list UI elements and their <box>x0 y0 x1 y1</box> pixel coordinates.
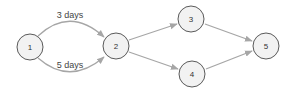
edge-label-5-days: 5 days <box>57 60 84 70</box>
node-2: 2 <box>103 33 129 59</box>
node-4: 4 <box>179 61 205 87</box>
node-5: 5 <box>253 33 279 59</box>
node-4-label: 4 <box>190 70 195 79</box>
edge-2-4 <box>129 52 178 69</box>
edge-3-5 <box>205 24 252 41</box>
node-3-label: 3 <box>189 15 194 24</box>
node-1: 1 <box>17 34 43 60</box>
node-5-label: 5 <box>264 42 269 51</box>
edge-1-2-upper <box>38 21 104 37</box>
node-3: 3 <box>178 6 204 32</box>
edge-label-3-days: 3 days <box>57 10 84 20</box>
network-diagram: 3 days 5 days 1 2 3 4 5 <box>0 0 296 95</box>
edge-2-3 <box>129 24 177 40</box>
node-2-label: 2 <box>114 42 119 51</box>
node-1-label: 1 <box>28 43 33 52</box>
edge-4-5 <box>206 51 252 69</box>
